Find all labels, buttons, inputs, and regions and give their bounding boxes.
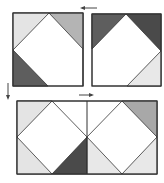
arrow-left-icon (80, 6, 97, 10)
assembly-diagram (0, 0, 164, 183)
arrow-right-icon (79, 93, 94, 97)
block-bottom-combined (17, 101, 157, 174)
arrow-down-icon (6, 83, 10, 100)
block-top-left (13, 13, 83, 86)
block-top-right (92, 14, 161, 86)
